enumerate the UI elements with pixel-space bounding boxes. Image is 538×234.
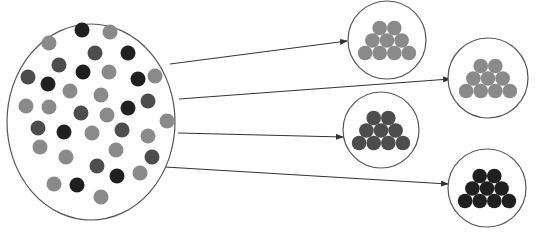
dot-light bbox=[466, 71, 481, 86]
dot-medium bbox=[352, 136, 367, 151]
dot-light bbox=[488, 59, 503, 74]
dot-dark bbox=[465, 181, 480, 196]
dot-dark bbox=[75, 23, 90, 38]
dot-medium bbox=[88, 46, 103, 61]
dot-medium bbox=[359, 123, 374, 138]
dot-light bbox=[94, 190, 109, 205]
dot-medium bbox=[366, 136, 381, 151]
dot-light bbox=[372, 46, 387, 61]
dot-light bbox=[33, 140, 48, 155]
dot-dark bbox=[76, 65, 91, 80]
dot-light bbox=[488, 84, 503, 99]
dot-dark bbox=[458, 194, 473, 209]
dot-light bbox=[141, 129, 156, 144]
dot-light bbox=[380, 33, 395, 48]
dot-medium bbox=[366, 111, 381, 126]
dot-light bbox=[109, 143, 124, 158]
dot-light bbox=[473, 84, 488, 99]
dot-medium bbox=[115, 123, 130, 138]
dot-dark bbox=[121, 46, 136, 61]
dot-light bbox=[148, 69, 163, 84]
dot-light bbox=[473, 59, 488, 74]
dot-dark bbox=[41, 77, 56, 92]
arrow bbox=[165, 167, 448, 184]
dot-light bbox=[387, 21, 402, 36]
dot-light bbox=[387, 46, 402, 61]
group-light-1 bbox=[348, 1, 426, 79]
dot-medium bbox=[145, 150, 160, 165]
dot-light bbox=[495, 71, 510, 86]
dot-light bbox=[133, 166, 148, 181]
dot-light bbox=[42, 36, 57, 51]
sorted-groups bbox=[343, 1, 528, 227]
dot-light bbox=[102, 65, 117, 80]
dot-light bbox=[372, 21, 387, 36]
dot-dark bbox=[121, 101, 136, 116]
dot-medium bbox=[74, 106, 89, 121]
dot-dark bbox=[480, 181, 495, 196]
dot-light bbox=[481, 71, 496, 86]
dot-dark bbox=[57, 125, 72, 140]
dot-light bbox=[42, 100, 57, 115]
dot-medium bbox=[388, 123, 403, 138]
dot-light bbox=[402, 46, 417, 61]
dot-light bbox=[103, 25, 118, 40]
dot-light bbox=[85, 126, 100, 141]
dot-medium bbox=[52, 58, 67, 73]
dot-dark bbox=[502, 194, 517, 209]
dot-dark bbox=[131, 72, 146, 87]
dot-light bbox=[160, 114, 175, 129]
arrow bbox=[170, 41, 347, 64]
group-medium bbox=[343, 92, 419, 168]
dot-medium bbox=[21, 70, 36, 85]
dot-dark bbox=[487, 194, 502, 209]
dot-medium bbox=[90, 159, 105, 174]
arrow bbox=[179, 79, 450, 99]
dot-medium bbox=[31, 121, 46, 136]
dot-light bbox=[459, 84, 474, 99]
dot-dark bbox=[110, 169, 125, 184]
dot-light bbox=[394, 33, 409, 48]
dot-dark bbox=[487, 169, 502, 184]
dot-dark bbox=[472, 169, 487, 184]
group-dark bbox=[448, 149, 526, 227]
dot-light bbox=[47, 177, 62, 192]
dot-medium bbox=[396, 136, 411, 151]
dot-light bbox=[94, 88, 109, 103]
dot-light bbox=[19, 99, 34, 114]
dot-dark bbox=[472, 194, 487, 209]
dot-light bbox=[358, 46, 373, 61]
dot-dark bbox=[494, 181, 509, 196]
dot-light bbox=[59, 150, 74, 165]
dot-medium bbox=[374, 123, 389, 138]
arrow bbox=[178, 133, 343, 137]
dot-light bbox=[63, 84, 78, 99]
sorting-diagram bbox=[0, 0, 538, 234]
mixed-source-circle bbox=[7, 23, 175, 221]
dot-medium bbox=[381, 136, 396, 151]
dot-dark bbox=[70, 178, 85, 193]
dot-medium bbox=[141, 94, 156, 109]
dot-light bbox=[100, 108, 115, 123]
group-light-2 bbox=[448, 38, 528, 118]
dot-light bbox=[365, 33, 380, 48]
dot-medium bbox=[381, 111, 396, 126]
dot-light bbox=[503, 84, 518, 99]
